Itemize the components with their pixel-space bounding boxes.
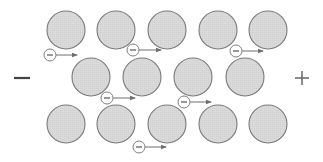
electron (44, 49, 77, 61)
metal-ions (47, 11, 287, 143)
metal-ion (47, 105, 85, 143)
metal-ion (249, 11, 287, 49)
metal-ion (97, 11, 135, 49)
metal-ion (47, 11, 85, 49)
metal-ion (148, 11, 186, 49)
metal-ion (148, 105, 186, 143)
metal-ion (199, 105, 237, 143)
electron (133, 141, 166, 153)
metal-ion (72, 58, 110, 96)
metal-ion (123, 58, 161, 96)
metal-ion (97, 105, 135, 143)
electron (178, 96, 211, 108)
metal-ion (249, 105, 287, 143)
metal-ion (174, 58, 212, 96)
metal-ion (226, 58, 264, 96)
metal-ion (199, 11, 237, 49)
positive-terminal-icon (295, 71, 309, 85)
electron (101, 92, 135, 104)
electron-drift-diagram (0, 0, 323, 162)
